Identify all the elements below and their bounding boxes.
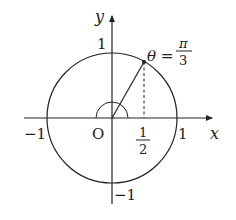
tick-y-pos: 1 <box>97 35 107 53</box>
angle-denominator: 3 <box>179 53 187 68</box>
tick-x-pos: 1 <box>178 125 188 143</box>
angle-numerator: π <box>178 36 188 51</box>
radius-line <box>112 62 144 118</box>
unit-circle-diagram: y x O 1 −1 −1 1 1 2 θ = π 3 <box>0 0 236 220</box>
x-axis-label: x <box>210 124 219 143</box>
tick-y-neg: −1 <box>114 186 136 204</box>
origin-label: O <box>92 125 104 143</box>
y-axis-label: y <box>94 7 105 26</box>
angle-label: θ = <box>147 47 173 65</box>
tick-x-neg: −1 <box>24 125 46 143</box>
half-denominator: 2 <box>139 142 147 157</box>
half-numerator: 1 <box>139 125 147 140</box>
